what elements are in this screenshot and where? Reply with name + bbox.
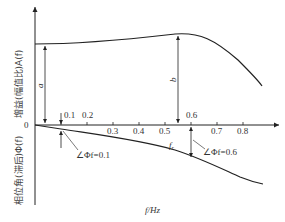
phase-leader-0.1 bbox=[63, 131, 78, 150]
tick-0.4: 0.4 bbox=[133, 126, 145, 136]
gain-curve bbox=[35, 34, 262, 86]
resonance-label: fr bbox=[169, 140, 175, 151]
phase-annotation-2: ∠Φf=0.6 bbox=[203, 147, 237, 157]
tick-0.2: 0.2 bbox=[82, 110, 93, 120]
marker-top-1: 0.1 bbox=[64, 110, 75, 120]
tick-0.8: 0.8 bbox=[237, 126, 249, 136]
phase-annotation-1: ∠Φf=0.1 bbox=[76, 150, 110, 160]
gain-marker-a: a bbox=[35, 83, 45, 88]
x-axis-label: f/Hz bbox=[145, 205, 161, 215]
phase-axis-label: 相位角(滞后)Φ(f) bbox=[13, 136, 24, 205]
tick-0.7: 0.7 bbox=[211, 126, 223, 136]
tick-0.5: 0.5 bbox=[159, 126, 171, 136]
origin-label: 0 bbox=[24, 120, 29, 130]
frequency-response-diagram: 0 0.1 0.2 0.3 0.4 0.5 0.6 0.7 0.8 a b fr… bbox=[0, 0, 285, 222]
tick-0.3: 0.3 bbox=[107, 126, 119, 136]
gain-marker-b: b bbox=[168, 77, 178, 82]
marker-top-2: 0.6 bbox=[186, 110, 198, 120]
gain-axis-label: 增益(幅值比)A(f) bbox=[13, 50, 24, 118]
